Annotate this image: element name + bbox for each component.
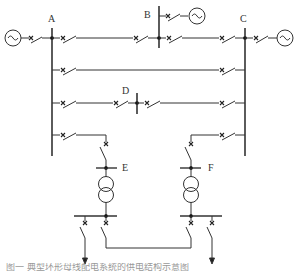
label-bus-d: D bbox=[122, 86, 129, 96]
generator-top-icon bbox=[189, 8, 205, 24]
generator-left-icon bbox=[5, 30, 21, 46]
label-bus-c: C bbox=[240, 14, 247, 24]
transformer-f-icon bbox=[184, 177, 199, 203]
generator-right-icon bbox=[277, 30, 293, 46]
transformer-e-icon bbox=[99, 177, 114, 203]
breaker-icon bbox=[29, 36, 42, 43]
figure-caption: 图一 典型环形母线配电系统的供电结构示意图 bbox=[6, 263, 294, 272]
label-bus-b: B bbox=[144, 10, 151, 20]
label-bus-f: F bbox=[208, 163, 214, 173]
single-line-diagram bbox=[0, 0, 298, 272]
label-bus-e: E bbox=[122, 163, 128, 173]
label-bus-a: A bbox=[48, 14, 55, 24]
